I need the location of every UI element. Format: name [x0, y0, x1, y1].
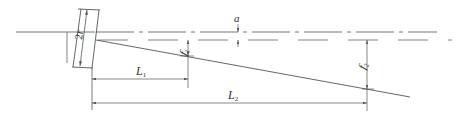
deflection-diagram: 2r a f1 f2 L1 L2 — [0, 0, 465, 121]
dimension-f1 — [180, 40, 194, 88]
dimension-f2 — [362, 40, 374, 111]
label-a: a — [234, 12, 240, 24]
label-2r: 2r — [72, 28, 85, 40]
label-L1: L1 — [135, 64, 147, 79]
label-f2: f2 — [356, 60, 372, 71]
label-L2: L2 — [227, 88, 239, 103]
